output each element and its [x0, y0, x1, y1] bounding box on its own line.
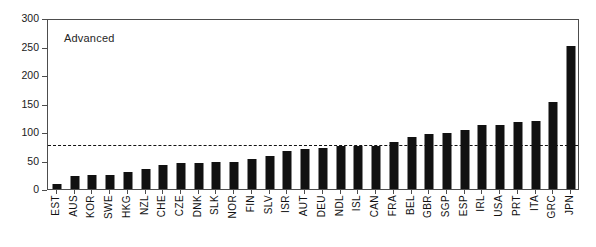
- bar-slot: [474, 20, 492, 189]
- bar[interactable]: [194, 163, 203, 189]
- x-axis-label: NZL: [136, 195, 154, 245]
- x-axis-tick-mark: [215, 190, 216, 194]
- x-axis-label-text: SGP: [441, 195, 451, 217]
- x-axis-label: JPN: [561, 195, 579, 245]
- x-axis-label: EST: [47, 195, 65, 245]
- x-axis-label: SWE: [100, 195, 118, 245]
- bar-slot: [545, 20, 563, 189]
- x-axis-label: CZE: [171, 195, 189, 245]
- bar-slot: [367, 20, 385, 189]
- bar[interactable]: [52, 184, 61, 189]
- bar-slot: [403, 20, 421, 189]
- x-axis-label: SLK: [207, 195, 225, 245]
- x-axis-tick-mark: [340, 190, 341, 194]
- x-axis-label: HKG: [118, 195, 136, 245]
- x-axis-label: AUS: [65, 195, 83, 245]
- bar[interactable]: [70, 176, 79, 189]
- x-axis-label-text: KOR: [86, 195, 96, 218]
- bar[interactable]: [159, 165, 168, 189]
- x-axis-tick-mark: [535, 190, 536, 194]
- x-axis-label: DNK: [189, 195, 207, 245]
- bar[interactable]: [531, 121, 540, 189]
- x-axis-label: SGP: [437, 195, 455, 245]
- y-axis-tick-label: 150: [21, 98, 39, 110]
- x-axis-tick-mark: [411, 190, 412, 194]
- x-axis-label-text: IRL: [476, 195, 486, 212]
- bar[interactable]: [496, 125, 505, 189]
- x-axis-label-text: ITA: [530, 195, 540, 211]
- bar-slot: [438, 20, 456, 189]
- x-axis-label-text: GRC: [547, 195, 557, 218]
- x-axis-label-text: CHE: [157, 195, 167, 217]
- bar[interactable]: [567, 46, 576, 189]
- x-axis-label: NDL: [331, 195, 349, 245]
- x-axis-label: ISR: [278, 195, 296, 245]
- bar-slot: [261, 20, 279, 189]
- bar[interactable]: [230, 162, 239, 189]
- x-axis-label: GBR: [419, 195, 437, 245]
- x-axis-label: FIN: [242, 195, 260, 245]
- y-axis-tick-label: 50: [27, 155, 39, 167]
- bar[interactable]: [123, 172, 132, 189]
- x-axis-label-text: CZE: [175, 195, 185, 216]
- bar[interactable]: [88, 175, 97, 189]
- x-axis-label-text: SLK: [210, 195, 220, 215]
- bar[interactable]: [478, 125, 487, 189]
- bar[interactable]: [106, 175, 115, 189]
- x-axis-labels: ESTAUSKORSWEHKGNZLCHECZEDNKSLKNORFINSLVI…: [47, 195, 579, 247]
- bar[interactable]: [460, 130, 469, 189]
- x-axis-tick-mark: [481, 190, 482, 194]
- bar[interactable]: [407, 137, 416, 189]
- x-axis-label-text: HKG: [122, 195, 132, 218]
- x-axis-label-text: EST: [51, 195, 61, 216]
- bar[interactable]: [442, 133, 451, 189]
- y-axis-tick-label: 300: [21, 12, 39, 24]
- x-axis-label-text: SWE: [104, 195, 114, 219]
- bar-slot: [491, 20, 509, 189]
- x-axis-label: IRL: [473, 195, 491, 245]
- bar[interactable]: [247, 159, 256, 189]
- bar[interactable]: [212, 162, 221, 189]
- bar[interactable]: [283, 151, 292, 189]
- x-axis-tick-mark: [552, 190, 553, 194]
- x-axis-label-text: DEU: [317, 195, 327, 217]
- bar[interactable]: [336, 146, 345, 189]
- x-axis-label-text: ISR: [281, 195, 291, 213]
- bar-slot: [83, 20, 101, 189]
- bar[interactable]: [549, 102, 558, 189]
- plot-area: Advanced: [47, 19, 579, 190]
- bar-slot: [527, 20, 545, 189]
- x-axis-label-text: BEL: [406, 195, 416, 215]
- x-axis-tick-mark: [127, 190, 128, 194]
- x-axis-tick-mark: [198, 190, 199, 194]
- x-axis-label: SLV: [260, 195, 278, 245]
- y-axis-tick-label: 0: [33, 183, 39, 195]
- bar[interactable]: [372, 146, 381, 189]
- x-axis-tick-mark: [180, 190, 181, 194]
- bar[interactable]: [176, 163, 185, 189]
- x-axis-label: GRC: [544, 195, 562, 245]
- bar[interactable]: [318, 148, 327, 189]
- bar-slot: [154, 20, 172, 189]
- x-axis-tick-mark: [304, 190, 305, 194]
- bar[interactable]: [513, 122, 522, 189]
- x-axis-label-text: SLV: [264, 195, 274, 214]
- x-axis-tick-mark: [517, 190, 518, 194]
- bar[interactable]: [389, 142, 398, 189]
- x-axis-label: CAN: [366, 195, 384, 245]
- bar-slot: [314, 20, 332, 189]
- x-axis-tick-mark: [162, 190, 163, 194]
- bar-slot: [172, 20, 190, 189]
- x-axis-tick-mark: [322, 190, 323, 194]
- bar[interactable]: [141, 169, 150, 189]
- bar[interactable]: [354, 146, 363, 189]
- bar[interactable]: [301, 149, 310, 189]
- x-axis-label: ESP: [455, 195, 473, 245]
- x-axis-label: ITA: [526, 195, 544, 245]
- x-axis-label-text: FRA: [388, 195, 398, 216]
- bar[interactable]: [425, 134, 434, 189]
- x-axis-tick-mark: [269, 190, 270, 194]
- x-axis-label-text: CAN: [370, 195, 380, 217]
- bar[interactable]: [265, 156, 274, 189]
- x-axis-tick-mark: [286, 190, 287, 194]
